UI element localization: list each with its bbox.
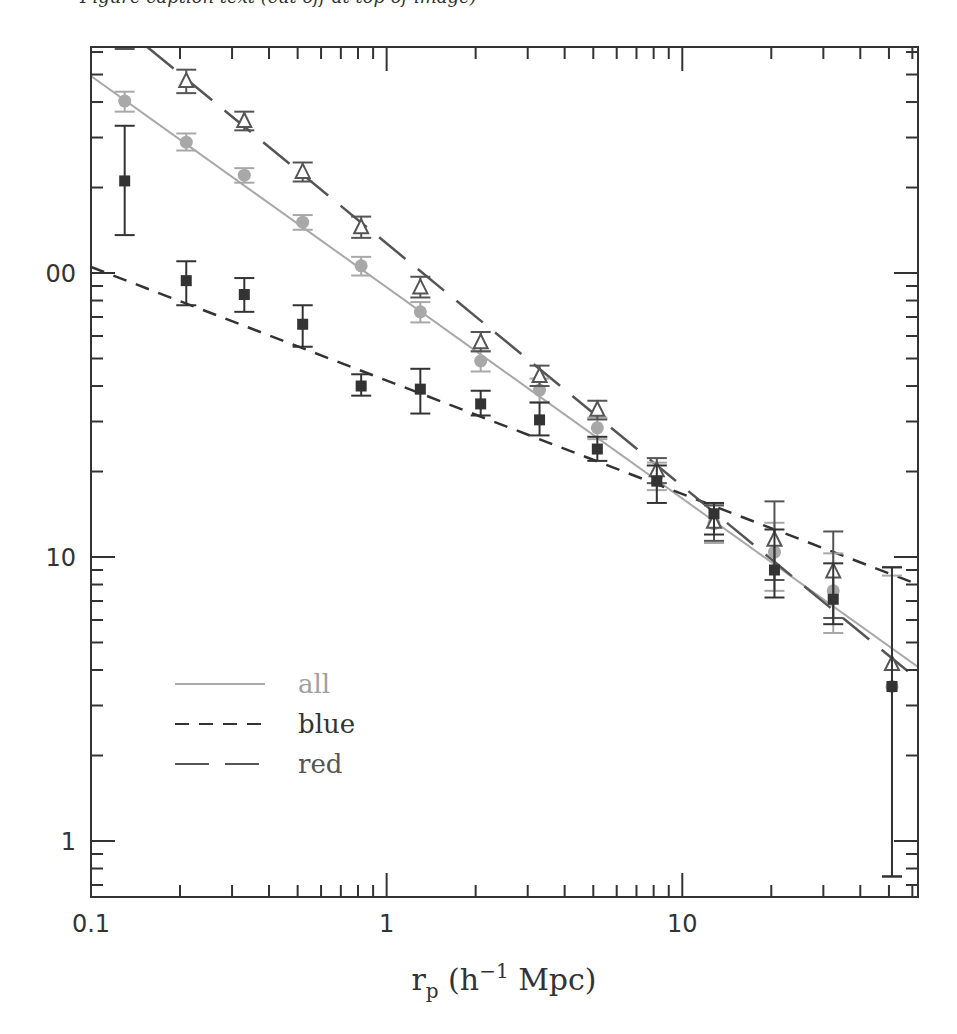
data-point-square	[886, 681, 897, 692]
series-red	[115, 0, 902, 876]
correlation-function-chart: 0.111011000 rp (h−1 Mpc) allbluered	[0, 0, 957, 1034]
plot-frame	[91, 47, 918, 897]
data-point-triangle	[179, 73, 193, 87]
tick-labels: 0.111011000	[45, 260, 697, 938]
x-tick-label: 1	[379, 910, 394, 938]
data-point-square	[239, 289, 250, 300]
data-point-circle	[414, 305, 427, 318]
data-point-square	[181, 275, 192, 286]
data-point-square	[769, 564, 780, 575]
data-point-circle	[238, 169, 251, 182]
data-point-square	[356, 381, 367, 392]
data-point-square	[119, 175, 130, 186]
data-point-square	[651, 476, 662, 487]
data-point-circle	[474, 354, 487, 367]
fit-line-all	[91, 76, 918, 667]
data-point-square	[828, 594, 839, 605]
data-point-square	[708, 508, 719, 519]
x-axis-label: rp (h−1 Mpc)	[411, 959, 596, 1003]
plot-area	[91, 0, 918, 876]
fit-line-blue	[91, 267, 918, 585]
axis-ticks	[91, 47, 918, 897]
data-point-circle	[591, 421, 604, 434]
data-point-triangle	[590, 402, 604, 416]
data-point-circle	[180, 136, 193, 149]
series-all	[115, 92, 902, 877]
data-point-square	[415, 384, 426, 395]
x-tick-label: 10	[667, 910, 698, 938]
data-point-square	[592, 444, 603, 455]
data-point-triangle	[533, 368, 547, 382]
y-tick-label: 1	[61, 828, 76, 856]
data-point-circle	[118, 95, 131, 108]
data-point-triangle	[474, 334, 488, 348]
legend-label-all: all	[298, 669, 330, 699]
data-point-triangle	[118, 9, 132, 23]
data-point-square	[297, 319, 308, 330]
data-point-square	[534, 414, 545, 425]
y-tick-label: 10	[45, 544, 76, 572]
legend: allbluered	[175, 669, 355, 779]
y-tick-label: 00	[45, 260, 76, 288]
data-point-square	[475, 398, 486, 409]
data-point-circle	[296, 216, 309, 229]
data-point-triangle	[413, 279, 427, 293]
legend-label-red: red	[298, 749, 342, 779]
data-point-circle	[355, 259, 368, 272]
x-tick-label: 0.1	[72, 910, 110, 938]
data-point-triangle	[296, 164, 310, 178]
data-point-triangle	[237, 113, 251, 127]
legend-label-blue: blue	[298, 709, 355, 739]
